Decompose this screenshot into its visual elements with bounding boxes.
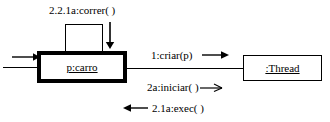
message-arrow-criar [202,51,229,59]
message-arrow-exec [123,104,148,112]
incoming-arrow-left [12,53,40,61]
self-call-arrow-down [106,22,114,49]
message-label-iniciar: 2a:iniciar( ) [147,82,199,93]
message-label-exec: 2.1a:exec( ) [152,103,204,114]
self-call-loop-bracket [65,24,103,54]
object-label-carro: p:carro [66,61,97,73]
object-node-thread[interactable]: :Thread [243,55,322,81]
association-link-line [126,68,244,69]
uml-communication-diagram: 2.2.1a:correr( ) p:carro :Thread 1:criar… [0,0,330,122]
incoming-link-line [3,67,38,68]
message-arrow-iniciar [200,84,222,92]
object-label-thread: :Thread [265,62,299,74]
message-label-correr: 2.2.1a:correr( ) [49,5,115,16]
object-node-carro[interactable]: p:carro [37,51,127,83]
message-label-criar: 1:criar(p) [151,50,193,61]
